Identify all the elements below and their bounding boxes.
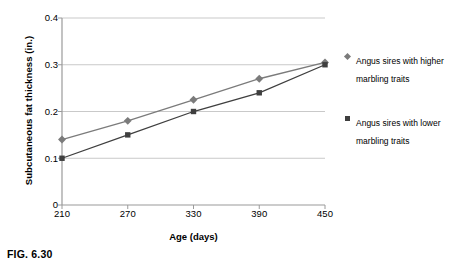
figure-caption: FIG. 6.30 <box>7 248 53 260</box>
diamond-marker-icon <box>344 53 351 60</box>
square-marker-icon <box>345 116 350 121</box>
legend-entry-lower-marbling: Angus sires with lower marbling traits <box>345 112 451 148</box>
legend-label: Angus sires with lower marbling traits <box>356 118 441 146</box>
chart-legend: Angus sires with higher marbling traits … <box>345 50 451 174</box>
x-tick-label: 270 <box>108 208 148 219</box>
figure-container: Subcutaneous fat thickness (in.) 0.4 0.3… <box>0 0 455 277</box>
series-higher-marbling <box>58 58 329 143</box>
gridlines <box>62 18 325 158</box>
x-tick-label: 450 <box>305 208 345 219</box>
legend-label: Angus sires with higher marbling traits <box>356 56 444 84</box>
x-tick-label: 210 <box>42 208 82 219</box>
x-axis-title: Age (days) <box>62 231 325 242</box>
x-tick-label: 390 <box>239 208 279 219</box>
legend-entry-higher-marbling: Angus sires with higher marbling traits <box>345 50 451 86</box>
chart: Subcutaneous fat thickness (in.) 0.4 0.3… <box>0 0 455 232</box>
x-axis-tick-labels: 210 270 330 390 450 <box>62 208 342 224</box>
x-tick-label: 330 <box>174 208 214 219</box>
